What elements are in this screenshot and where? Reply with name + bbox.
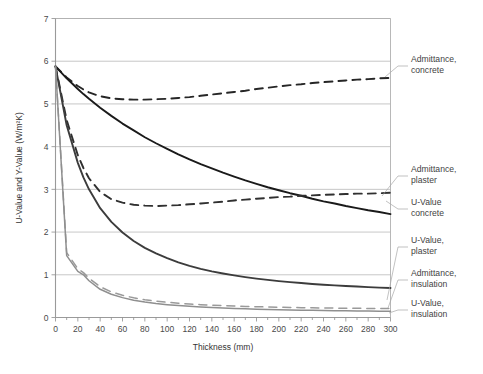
series-line-u-value-plaster <box>56 66 391 288</box>
callout-admittance-concrete-line2: concrete <box>411 65 444 75</box>
callout-u-value-concrete-line1: U-Value <box>411 197 442 207</box>
y-tick-label-0: 0 <box>44 313 49 323</box>
x-tick-label-120: 120 <box>182 324 196 334</box>
x-tick-label-80: 80 <box>140 324 150 334</box>
chart-root: 0204060801001201401601802002202402602803… <box>0 0 483 374</box>
y-tick-label-1: 1 <box>44 270 49 280</box>
x-tick-label-100: 100 <box>160 324 174 334</box>
x-tick-label-220: 220 <box>294 324 308 334</box>
callout-u-value-concrete-line2: concrete <box>411 208 444 218</box>
x-tick-label-0: 0 <box>53 324 58 334</box>
callout-labels-group: Admittance,concreteAdmittance,plasterU-V… <box>382 54 456 319</box>
x-tick-label-240: 240 <box>316 324 330 334</box>
x-tick-label-60: 60 <box>118 324 128 334</box>
series-line-admittance-insulation <box>56 66 391 308</box>
callout-admittance-insulation-line2: insulation <box>411 279 448 289</box>
callout-u-value-insulation-line2: insulation <box>411 309 448 319</box>
y-tick-label-6: 6 <box>44 56 49 66</box>
callout-admittance-plaster-line1: Admittance, <box>411 164 456 174</box>
callout-u-value-plaster-line2: plaster <box>411 246 437 256</box>
x-tick-label-180: 180 <box>249 324 263 334</box>
x-tick-label-300: 300 <box>383 324 397 334</box>
callout-leader-line-5 <box>389 310 408 313</box>
x-tick-label-280: 280 <box>361 324 375 334</box>
callout-u-value-plaster-line1: U-Value, <box>411 235 444 245</box>
callout-admittance-concrete-line1: Admittance, <box>411 54 456 64</box>
series-line-admittance-concrete <box>56 66 391 99</box>
y-tick-labels: 01234567 <box>44 14 49 323</box>
series-line-admittance-plaster <box>56 66 391 206</box>
x-tick-label-40: 40 <box>95 324 105 334</box>
line-chart: 0204060801001201401601802002202402602803… <box>0 0 483 374</box>
x-tick-label-140: 140 <box>205 324 219 334</box>
y-tick-label-5: 5 <box>44 99 49 109</box>
y-tick-label-7: 7 <box>44 14 49 24</box>
x-tick-label-20: 20 <box>73 324 83 334</box>
callout-leader-line-2 <box>386 201 408 209</box>
series-line-u-value-concrete <box>56 66 391 214</box>
tick-marks-group <box>52 19 391 322</box>
callout-admittance-insulation-line1: Admittance, <box>411 268 456 278</box>
y-tick-label-4: 4 <box>44 142 49 152</box>
x-axis-title: Thickness (mm) <box>193 342 254 352</box>
gridlines-group <box>56 19 391 275</box>
callout-leader-line-4 <box>388 280 408 308</box>
y-axis-title: U-Value and Y-Value (W/m²K) <box>14 112 24 224</box>
callout-u-value-insulation-line1: U-Value, <box>411 298 444 308</box>
x-tick-label-260: 260 <box>339 324 353 334</box>
y-tick-label-3: 3 <box>44 185 49 195</box>
x-tick-label-160: 160 <box>227 324 241 334</box>
x-tick-label-200: 200 <box>272 324 286 334</box>
callout-admittance-plaster-line2: plaster <box>411 175 437 185</box>
y-tick-label-2: 2 <box>44 227 49 237</box>
callout-leader-line-0 <box>385 66 408 77</box>
x-tick-labels: 0204060801001201401601802002202402602803… <box>53 324 398 334</box>
